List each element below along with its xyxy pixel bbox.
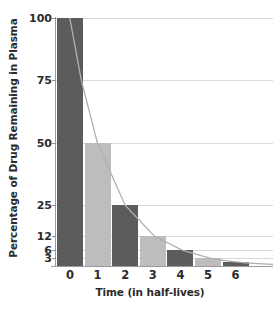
x-axis-title: Time (in half-lives) (40, 286, 260, 298)
y-tick-mark-75 (52, 80, 56, 81)
y-tick-label-25: 25 (26, 200, 52, 211)
y-tick-mark-100 (52, 18, 56, 19)
bar-5 (195, 258, 221, 266)
y-tick-mark-6 (52, 250, 56, 251)
y-axis-ticks: 1007550251263 (26, 0, 52, 313)
y-tick-mark-25 (52, 205, 56, 206)
bar-1 (85, 143, 111, 266)
y-tick-mark-50 (52, 143, 56, 144)
x-tick-label-6: 6 (222, 268, 250, 282)
y-tick-label-100: 100 (26, 13, 52, 24)
y-tick-label-12: 12 (26, 231, 52, 242)
bar-6 (223, 262, 249, 266)
x-tick-label-4: 4 (166, 268, 194, 282)
x-tick-label-5: 5 (194, 268, 222, 282)
bar-3 (140, 236, 166, 266)
y-tick-label-50: 50 (26, 138, 52, 149)
x-tick-label-1: 1 (84, 268, 112, 282)
bar-4 (167, 250, 193, 266)
gridline-100 (56, 18, 273, 19)
bar-2 (112, 205, 138, 266)
drug-half-life-chart: Percentage of Drug Remaining in Plasma 1… (0, 0, 279, 313)
x-tick-label-3: 3 (139, 268, 167, 282)
gridline-75 (56, 80, 273, 81)
x-axis-line (51, 266, 273, 267)
y-tick-mark-12 (52, 236, 56, 237)
x-tick-label-0: 0 (56, 268, 84, 282)
y-tick-label-75: 75 (26, 75, 52, 86)
x-axis-ticks: 0123456 (56, 268, 273, 284)
plot-area (56, 17, 273, 266)
y-axis-title: Percentage of Drug Remaining in Plasma (2, 8, 24, 268)
bar-0 (57, 18, 83, 266)
y-tick-label-3: 3 (26, 253, 52, 264)
y-tick-mark-3 (52, 258, 56, 259)
x-tick-label-2: 2 (111, 268, 139, 282)
